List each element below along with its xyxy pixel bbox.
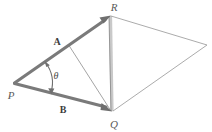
angle-arc (46, 63, 53, 93)
segment-edge-e-q (113, 45, 207, 111)
vector-label-b: B (60, 105, 67, 115)
segment-median-to-q (69, 46, 111, 112)
vertex-label-p: P (8, 90, 15, 101)
vector-label-a: A (53, 37, 60, 47)
angle-label-theta: θ (54, 71, 59, 81)
vector-diagram-canvas (0, 0, 212, 132)
vertex-label-q: Q (110, 119, 118, 130)
vector-diagram-figure: P R Q A B θ (0, 0, 212, 132)
segment-edge-r-e (111, 16, 207, 45)
vertex-label-r: R (111, 2, 118, 13)
vector-a-shaft (15, 20, 106, 83)
